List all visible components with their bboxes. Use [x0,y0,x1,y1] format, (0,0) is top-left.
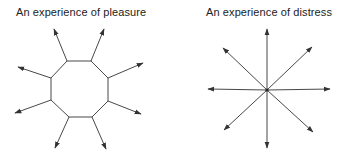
radiating-arrow-icon [224,90,267,130]
outward-arrow-icon [92,117,106,149]
outward-arrow-icon [15,100,51,113]
radiating-arrow-icon [223,48,267,90]
radiating-arrow-icon [208,89,267,90]
outward-arrow-icon [55,117,69,148]
distress-figure [208,29,330,148]
outward-arrow-icon [54,29,67,61]
radiating-arrow-icon [267,89,330,90]
outward-arrow-icon [91,29,104,61]
outward-arrow-icon [108,63,143,78]
radiating-arrow-icon [267,47,312,90]
diagram-canvas [0,0,347,157]
octagon-shape [51,61,108,117]
center-point [265,88,268,91]
outward-arrow-icon [108,101,141,114]
outward-arrow-icon [18,67,51,78]
radiating-arrow-icon [267,90,313,132]
pleasure-figure [15,29,143,149]
